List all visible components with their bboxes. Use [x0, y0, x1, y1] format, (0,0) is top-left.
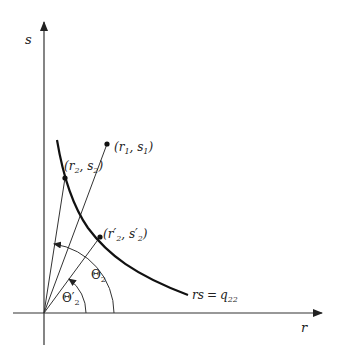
label-theta2prime: Θ′2	[62, 291, 80, 307]
label-r2prime-s2prime: (r′2, s′2)	[103, 227, 148, 243]
curve-label: rs=q22	[192, 288, 238, 304]
diagram-canvas: s r (r1, s1) (r2, s2) (r′2, s′2) Θ2 Θ′2 …	[0, 0, 345, 353]
s-axis-label: s	[25, 32, 32, 47]
label-theta2: Θ2	[91, 268, 106, 284]
r-axis-label: r	[301, 320, 308, 335]
point-r1-s1	[104, 141, 109, 146]
hyperbola-curve	[57, 140, 188, 295]
label-r2-s2: (r2, s2)	[64, 159, 103, 175]
label-r1-s1: (r1, s1)	[114, 140, 153, 156]
point-r2-s2	[62, 175, 67, 180]
point-r2prime-s2prime	[97, 234, 102, 239]
